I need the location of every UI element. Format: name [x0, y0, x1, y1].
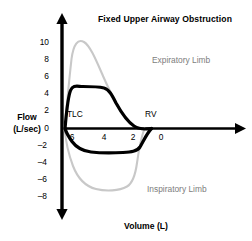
- y-tick-label: –2: [29, 141, 47, 149]
- x-axis-arrow-right: [235, 123, 246, 134]
- x-tick-label: 4: [97, 133, 111, 141]
- annotation-expiratory-limb: Expiratory Limb: [152, 56, 210, 64]
- y-tick-label: 4: [31, 89, 49, 97]
- series-obstruction-loop: [65, 86, 152, 153]
- x-tick-label: 2: [126, 133, 140, 141]
- annotation-rv: RV: [145, 110, 156, 118]
- y-axis-title-line2: (L/sec): [0, 125, 54, 134]
- x-axis-title: Volume (L): [100, 222, 192, 231]
- y-axis-title: Flow (L/sec): [0, 113, 54, 133]
- annotation-inspiratory-limb: Inspiratory Limb: [147, 185, 207, 193]
- y-tick-label: 6: [31, 72, 49, 80]
- y-axis-arrow-up: [56, 13, 67, 24]
- annotation-tlc: TLC: [67, 110, 83, 118]
- y-axis-title-line1: Flow: [17, 112, 37, 122]
- page-title: Fixed Upper Airway Obstruction: [98, 15, 232, 24]
- y-tick-label: –4: [29, 158, 47, 166]
- y-tick-label: –8: [29, 192, 47, 200]
- y-axis-arrow-down: [56, 209, 67, 220]
- x-tick-label: 6: [65, 133, 79, 141]
- y-tick-label: 8: [31, 55, 49, 63]
- x-tick-label: 0: [154, 133, 168, 141]
- flow-volume-loop-figure: Fixed Upper Airway Obstruction 10 8 6 4 …: [0, 0, 252, 241]
- y-tick-label: 10: [31, 38, 49, 46]
- y-tick-label: –6: [29, 175, 47, 183]
